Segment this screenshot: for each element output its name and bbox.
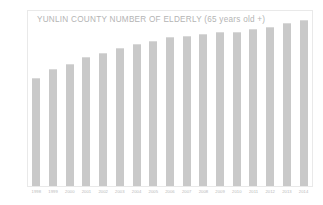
x-tick-wrap: 2014 xyxy=(295,189,312,194)
x-axis-tick: 2013 xyxy=(282,189,292,194)
x-axis-tick: 2006 xyxy=(165,189,175,194)
bar xyxy=(266,27,274,186)
x-tick-wrap: 2001 xyxy=(78,189,95,194)
x-tick-wrap: 2005 xyxy=(145,189,162,194)
x-axis-tick: 2010 xyxy=(232,189,242,194)
bar-series xyxy=(28,11,312,186)
x-tick-wrap: 2007 xyxy=(178,189,195,194)
x-axis-tick: 2008 xyxy=(199,189,209,194)
chart-screenshot: YUNLIN COUNTY NUMBER OF ELDERLY (65 year… xyxy=(0,0,323,205)
bar-column xyxy=(162,11,179,186)
bar-column xyxy=(262,11,279,186)
bar-column xyxy=(178,11,195,186)
bar xyxy=(99,53,107,186)
x-axis-tick: 2012 xyxy=(265,189,275,194)
bar-column xyxy=(295,11,312,186)
x-tick-wrap: 2010 xyxy=(228,189,245,194)
bar xyxy=(116,48,124,186)
x-axis-tick: 2011 xyxy=(249,189,258,194)
x-tick-wrap: 2004 xyxy=(128,189,145,194)
x-tick-wrap: 2008 xyxy=(195,189,212,194)
bar xyxy=(66,64,74,187)
bar xyxy=(133,44,141,186)
bar-column xyxy=(112,11,129,186)
x-tick-wrap: 2002 xyxy=(95,189,112,194)
x-axis-tick: 2009 xyxy=(215,189,225,194)
bar xyxy=(82,57,90,187)
x-tick-wrap: 1998 xyxy=(28,189,45,194)
bar-column xyxy=(78,11,95,186)
bar-column xyxy=(212,11,229,186)
bar-column xyxy=(61,11,78,186)
bar-column xyxy=(45,11,62,186)
bar xyxy=(300,20,308,186)
bar-column xyxy=(195,11,212,186)
y-axis-tick-labels xyxy=(2,18,25,186)
bar-column xyxy=(279,11,296,186)
bar xyxy=(249,29,257,187)
bar xyxy=(166,37,174,186)
x-axis-tick: 2000 xyxy=(65,189,75,194)
x-tick-wrap: 2011 xyxy=(245,189,262,194)
x-axis-tick: 2001 xyxy=(82,189,92,194)
bar xyxy=(49,69,57,186)
x-tick-wrap: 1999 xyxy=(45,189,62,194)
x-axis-tick: 1999 xyxy=(48,189,58,194)
x-axis-tick: 2002 xyxy=(98,189,108,194)
x-tick-wrap: 2012 xyxy=(262,189,279,194)
bar-column xyxy=(245,11,262,186)
bar xyxy=(216,32,224,186)
bar-column xyxy=(28,11,45,186)
x-axis-tick: 2005 xyxy=(149,189,159,194)
x-axis-tick: 2007 xyxy=(182,189,192,194)
bar-column xyxy=(228,11,245,186)
bar xyxy=(149,41,157,186)
bar xyxy=(32,78,40,187)
plot-area xyxy=(28,11,312,186)
bar-column xyxy=(128,11,145,186)
bar-column xyxy=(145,11,162,186)
x-tick-wrap: 2013 xyxy=(279,189,296,194)
x-axis-tick: 2003 xyxy=(115,189,125,194)
bar-column xyxy=(95,11,112,186)
x-axis-tick-labels: 1998199920002001200220032004200520062007… xyxy=(28,189,312,194)
x-axis-tick: 1998 xyxy=(32,189,42,194)
x-axis-tick: 2004 xyxy=(132,189,142,194)
bar xyxy=(283,23,291,186)
x-tick-wrap: 2000 xyxy=(61,189,78,194)
bar xyxy=(233,32,241,186)
x-axis-tick: 2014 xyxy=(299,189,309,194)
bar xyxy=(199,34,207,186)
x-tick-wrap: 2009 xyxy=(212,189,229,194)
x-tick-wrap: 2006 xyxy=(162,189,179,194)
bar xyxy=(183,36,191,187)
x-tick-wrap: 2003 xyxy=(112,189,129,194)
